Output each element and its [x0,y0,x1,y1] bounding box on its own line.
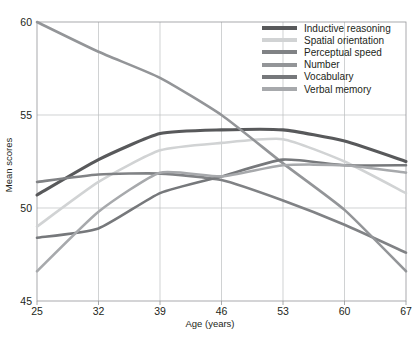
legend-item-label: Spatial orientation [304,35,384,46]
y-tick-label: 50 [20,202,32,214]
legend-color-swatch [262,87,297,91]
legend-item-label: Vocabulary [304,71,353,82]
legend-color-swatch [262,50,297,54]
legend-item[interactable]: Number [262,59,410,71]
x-tick-label: 25 [31,305,43,317]
x-axis-tick-labels: 25323946536067 [31,305,412,317]
legend-item[interactable]: Perceptual speed [262,46,410,58]
x-tick-label: 32 [93,305,105,317]
chart-legend: Inductive reasoningSpatial orientationPe… [262,22,410,95]
legend-color-swatch [262,26,297,31]
x-tick-label: 39 [154,305,166,317]
line-chart: 60555045 25323946536067 Age (years) Mean… [0,0,413,347]
legend-item-label: Inductive reasoning [304,23,391,34]
legend-item[interactable]: Inductive reasoning [262,22,410,34]
legend-item[interactable]: Vocabulary [262,71,410,83]
x-axis-title: Age (years) [185,318,234,329]
legend-color-swatch [262,63,297,67]
x-tick-label: 67 [400,305,412,317]
y-tick-label: 55 [20,109,32,121]
legend-color-swatch [262,75,297,79]
legend-item[interactable]: Verbal memory [262,83,410,95]
legend-color-swatch [262,38,297,42]
legend-item-label: Number [304,59,340,70]
legend-item-label: Perceptual speed [304,47,382,58]
x-tick-label: 60 [339,305,351,317]
x-tick-label: 53 [277,305,289,317]
legend-item-label: Verbal memory [304,84,371,95]
caption-strip [0,338,413,347]
y-tick-label: 60 [20,16,32,28]
y-axis-title: Mean scores [3,138,14,193]
x-tick-label: 46 [216,305,228,317]
legend-item[interactable]: Spatial orientation [262,34,410,46]
y-axis-tick-labels: 60555045 [20,16,32,307]
